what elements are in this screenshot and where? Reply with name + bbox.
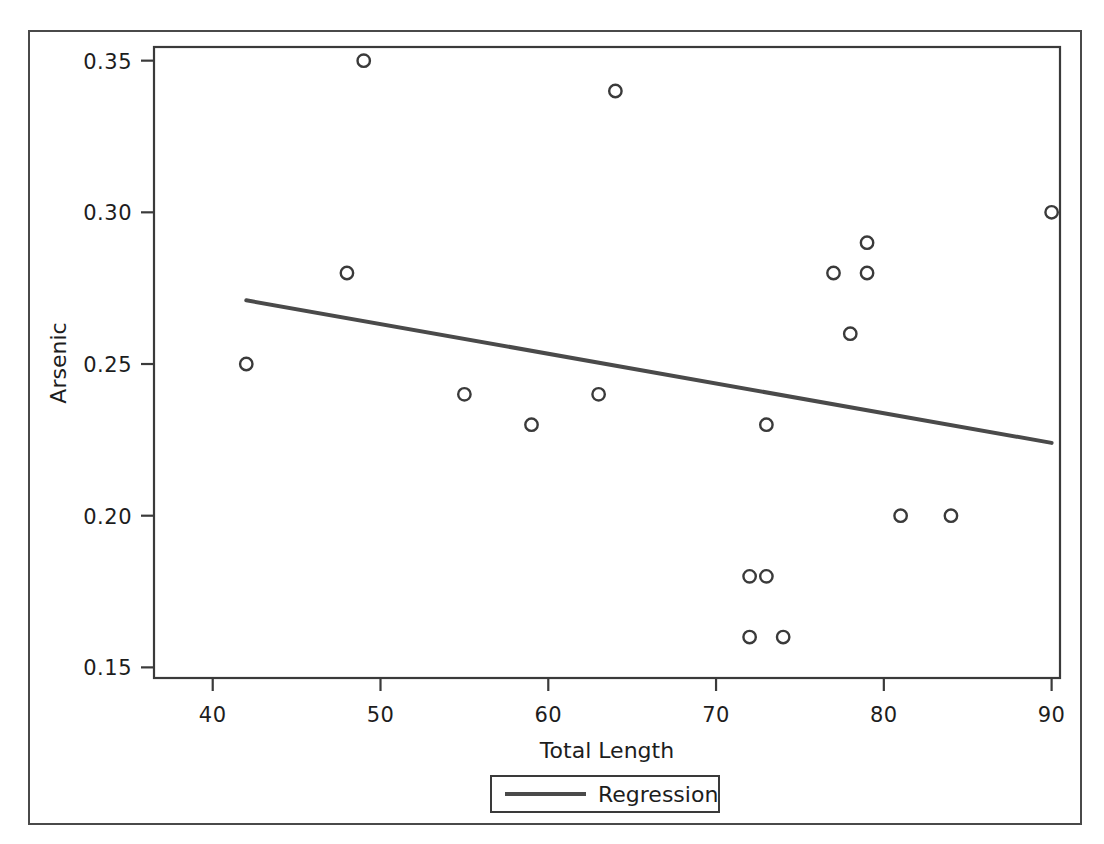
regression-line: [246, 300, 1051, 443]
scatter-plot: 0.150.200.250.300.35 405060708090 Total …: [0, 0, 1104, 844]
scatter-point: [844, 327, 856, 339]
scatter-point: [777, 631, 789, 643]
scatter-point: [358, 54, 370, 66]
regression-line-path: [246, 300, 1051, 443]
scatter-point: [240, 358, 252, 370]
legend: Regression: [491, 776, 719, 812]
scatter-point: [945, 509, 957, 521]
legend-label-regression: Regression: [598, 782, 718, 807]
y-axis-title: Arsenic: [46, 322, 71, 403]
x-tick-label: 90: [1038, 703, 1066, 727]
y-tick-label: 0.35: [83, 50, 132, 74]
scatter-point: [1045, 206, 1057, 218]
scatter-point: [341, 267, 353, 279]
x-axis-title: Total Length: [539, 738, 674, 763]
x-axis-ticks: 405060708090: [199, 678, 1066, 727]
y-tick-label: 0.15: [83, 656, 132, 680]
scatter-point: [743, 570, 755, 582]
figure-container: 0.150.200.250.300.35 405060708090 Total …: [0, 0, 1104, 844]
y-axis-ticks: 0.150.200.250.300.35: [83, 50, 154, 681]
scatter-point: [592, 388, 604, 400]
y-tick-label: 0.30: [83, 201, 132, 225]
data-points: [240, 54, 1058, 643]
scatter-point: [760, 570, 772, 582]
x-tick-label: 50: [367, 703, 395, 727]
scatter-point: [827, 267, 839, 279]
y-tick-label: 0.20: [83, 505, 132, 529]
scatter-point: [525, 418, 537, 430]
scatter-point: [609, 85, 621, 97]
scatter-point: [743, 631, 755, 643]
scatter-point: [861, 267, 873, 279]
x-tick-label: 70: [702, 703, 730, 727]
x-tick-label: 80: [870, 703, 898, 727]
y-tick-label: 0.25: [83, 353, 132, 377]
scatter-point: [760, 418, 772, 430]
x-tick-label: 40: [199, 703, 227, 727]
x-tick-label: 60: [534, 703, 562, 727]
scatter-point: [861, 236, 873, 248]
scatter-point: [458, 388, 470, 400]
scatter-point: [894, 509, 906, 521]
